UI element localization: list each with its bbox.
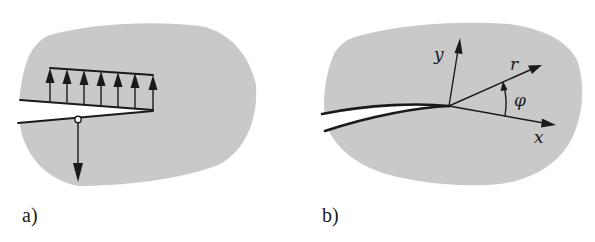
panel-b: y r x φ b) <box>322 23 582 227</box>
figure: a) y r x φ b) <box>0 0 595 242</box>
panel-label-a: a) <box>22 204 38 227</box>
hinge-point-icon <box>75 116 81 122</box>
panel-label-b: b) <box>322 204 339 227</box>
r-axis-label: r <box>510 54 519 74</box>
angle-phi-label: φ <box>514 90 526 110</box>
panel-a: a) <box>18 23 256 227</box>
y-axis-label: y <box>433 44 444 64</box>
x-axis-label: x <box>534 127 544 147</box>
